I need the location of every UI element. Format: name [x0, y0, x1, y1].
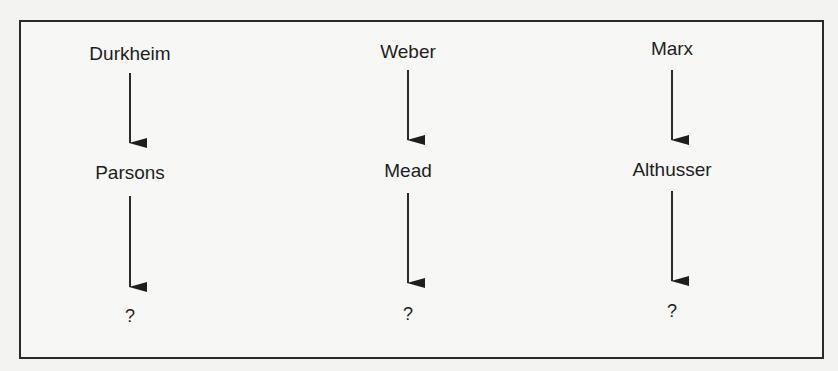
node-unknown-1: ? — [125, 307, 135, 325]
node-unknown-3: ? — [667, 302, 677, 320]
node-weber: Weber — [380, 42, 436, 61]
node-durkheim: Durkheim — [89, 44, 170, 63]
node-parsons: Parsons — [95, 163, 165, 182]
node-marx: Marx — [651, 39, 693, 58]
node-mead: Mead — [384, 161, 432, 180]
node-unknown-2: ? — [403, 305, 413, 323]
node-althusser: Althusser — [632, 160, 711, 179]
diagram-frame — [19, 20, 824, 359]
